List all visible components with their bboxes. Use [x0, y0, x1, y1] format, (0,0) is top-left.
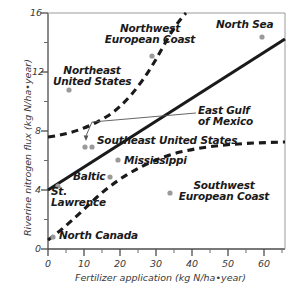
y-axis-major-ticks [41, 13, 48, 249]
point-baltic [107, 174, 112, 179]
label-baltic: Baltic [73, 171, 105, 182]
x-tick-30: 30 [150, 258, 162, 269]
label-east-gulf-of-mexico: East Gulf of Mexico [198, 105, 253, 127]
y-tick-16: 16 [30, 7, 42, 18]
plot-frame [48, 13, 285, 249]
label-northeast-united-states: Northeast United States [53, 65, 131, 87]
x-axis-title: Fertilizer application (kg N/ha•year) [75, 272, 246, 283]
label-southeast-united-states: Southeast United States [97, 135, 237, 146]
y-axis-title: Riverine nitrogen flux (kg N/ha•year) [22, 59, 33, 236]
y-tick-12: 12 [32, 66, 44, 77]
label-north-sea: North Sea [216, 19, 273, 30]
x-tick-40: 40 [186, 258, 198, 269]
y-tick-0: 0 [35, 243, 41, 254]
x-tick-60: 60 [258, 258, 270, 269]
point-northwest-european-coast [149, 53, 154, 58]
x-axis-major-ticks [48, 249, 264, 256]
x-tick-0: 0 [45, 258, 51, 269]
point-east-gulf-of-mexico [82, 144, 87, 149]
point-north-sea [259, 34, 264, 39]
point-mississippi [115, 157, 120, 162]
x-tick-20: 20 [114, 258, 126, 269]
y-tick-4: 4 [35, 184, 41, 195]
label-northwest-european-coast: Northwest European Coast [104, 23, 196, 45]
point-northeast-united-states [66, 87, 71, 92]
x-tick-50: 50 [222, 258, 234, 269]
x-tick-10: 10 [78, 258, 90, 269]
label-southwest-european-coast: Southwest European Coast [176, 180, 272, 202]
point-southwest-european-coast [167, 190, 172, 195]
point-southeast-united-states [89, 144, 94, 149]
label-mississippi: Mississippi [124, 155, 187, 166]
chart-figure: Northwest European Coast North Sea North… [0, 0, 296, 291]
point-north-canada [50, 234, 55, 239]
label-north-canada: North Canada [59, 230, 138, 241]
y-tick-8: 8 [35, 125, 41, 136]
label-st-lawrence: St. Lawrence [51, 186, 106, 208]
